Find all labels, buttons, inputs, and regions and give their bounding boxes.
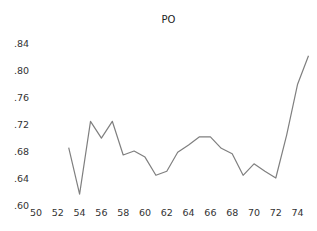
y-tick-label: .68	[14, 146, 29, 157]
x-tick-label: 66	[204, 207, 216, 218]
x-tick-label: 52	[52, 207, 64, 218]
y-tick-label: .80	[14, 65, 29, 76]
po-series-line	[69, 56, 309, 194]
y-tick-label: .76	[14, 92, 29, 103]
x-tick-label: 50	[30, 207, 42, 218]
x-tick-label: 72	[270, 207, 282, 218]
y-tick-label: .64	[14, 173, 29, 184]
x-tick-label: 74	[292, 207, 304, 218]
line-chart: .60.64.68.72.76.80.84 505254565860626466…	[0, 0, 317, 231]
y-tick-label: .60	[14, 200, 29, 211]
y-axis-ticks: .60.64.68.72.76.80.84	[14, 38, 29, 211]
x-axis-ticks: 50525456586062646668707274	[30, 207, 304, 218]
x-tick-label: 54	[74, 207, 86, 218]
x-tick-label: 70	[248, 207, 260, 218]
x-tick-label: 58	[117, 207, 129, 218]
y-tick-label: .84	[14, 38, 29, 49]
x-tick-label: 56	[95, 207, 107, 218]
x-tick-label: 64	[183, 207, 195, 218]
x-tick-label: 68	[226, 207, 238, 218]
x-tick-label: 60	[139, 207, 151, 218]
y-tick-label: .72	[14, 119, 29, 130]
x-tick-label: 62	[161, 207, 173, 218]
